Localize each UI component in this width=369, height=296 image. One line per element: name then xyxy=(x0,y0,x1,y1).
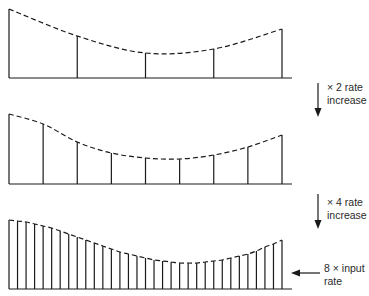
panels xyxy=(9,9,292,289)
input-rate-label-line1: 8 × input xyxy=(324,262,365,275)
sample-rate-diagram xyxy=(0,0,369,296)
x8-rate-samples-panel xyxy=(9,220,292,289)
envelope-curve xyxy=(9,114,282,159)
x2-rate-samples-panel xyxy=(9,114,292,184)
x2-rate-label-line2: increase xyxy=(327,94,367,107)
input-rate-label-line2: rate xyxy=(324,275,342,288)
input-samples-panel xyxy=(9,9,292,78)
x4-rate-label-line2: increase xyxy=(327,209,367,222)
down-arrow-icon xyxy=(315,83,322,117)
envelope-curve xyxy=(9,9,282,54)
x2-rate-label-line1: × 2 rate xyxy=(327,81,363,94)
x4-rate-label-line1: × 4 rate xyxy=(327,196,363,209)
envelope-curve xyxy=(9,220,282,263)
left-arrow-icon xyxy=(291,270,320,277)
down-arrow-icon xyxy=(315,194,322,229)
